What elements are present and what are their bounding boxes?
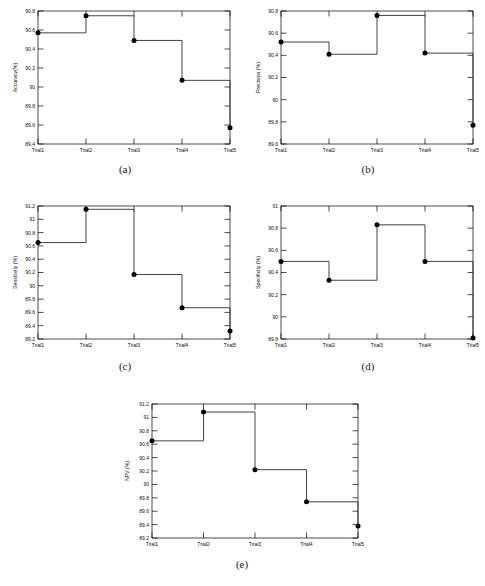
x-tick-label: Trial4 <box>176 342 189 348</box>
y-tick-label: 89.4 <box>139 522 149 528</box>
y-tick-label: 89.8 <box>268 119 278 125</box>
figure-panel-grid: 89.489.689.89090.290.490.690.8Trial1Tria… <box>0 0 485 586</box>
y-tick-label: 89.6 <box>25 309 35 315</box>
y-tick-label: 90.8 <box>139 428 149 434</box>
data-point-marker <box>471 123 476 128</box>
data-point-marker <box>375 222 380 227</box>
data-point-marker <box>356 523 361 528</box>
y-tick-label: 89.8 <box>25 103 35 109</box>
y-tick-label: 90.2 <box>268 292 278 298</box>
data-point-marker <box>132 272 137 277</box>
y-tick-label: 89.6 <box>139 508 149 514</box>
data-point-marker <box>201 410 206 415</box>
y-axis-label: Accuracy(%) <box>12 63 18 93</box>
data-point-marker <box>327 52 332 57</box>
x-tick-label: Trial4 <box>176 147 189 153</box>
plot-svg-a: 89.489.689.89090.290.490.690.8Trial1Tria… <box>8 4 236 162</box>
data-point-marker <box>180 305 185 310</box>
x-tick-label: Trial3 <box>128 342 141 348</box>
panel-caption-b: (b) <box>348 163 388 175</box>
data-point-marker <box>228 125 233 130</box>
y-tick-label: 89.8 <box>25 296 35 302</box>
y-tick-label: 90.4 <box>268 52 278 58</box>
data-point-marker <box>180 78 185 83</box>
y-tick-label: 91 <box>29 216 35 222</box>
y-tick-label: 91.2 <box>25 203 35 209</box>
y-tick-label: 91 <box>272 203 278 209</box>
chart-panel-a: 89.489.689.89090.290.490.690.8Trial1Tria… <box>8 4 236 162</box>
data-point-marker <box>36 30 41 35</box>
y-tick-label: 90.4 <box>25 256 35 262</box>
data-point-marker <box>279 40 284 45</box>
x-tick-label: Trial1 <box>32 342 45 348</box>
y-tick-label: 89.8 <box>139 495 149 501</box>
data-point-marker <box>304 499 309 504</box>
step-line <box>38 209 230 331</box>
y-tick-label: 90.2 <box>25 269 35 275</box>
y-tick-label: 90.6 <box>25 27 35 33</box>
plot-svg-e: 89.289.489.689.89090.290.490.690.89191.2… <box>118 396 366 556</box>
x-tick-label: Trial4 <box>300 541 313 547</box>
y-axis-label: NPV (%) <box>124 461 130 481</box>
x-tick-label: Trial5 <box>467 342 479 348</box>
chart-panel-b: 89.689.89090.290.490.690.8Trial1Trial2Tr… <box>251 4 479 162</box>
chart-panel-d: 89.89090.290.490.690.891Trial1Trial2Tria… <box>251 199 479 357</box>
data-point-marker <box>423 51 428 56</box>
y-tick-label: 91.2 <box>139 401 149 407</box>
x-tick-label: Trial3 <box>128 147 141 153</box>
x-tick-label: Trial1 <box>32 147 45 153</box>
step-line <box>281 225 473 338</box>
data-point-marker <box>36 240 41 245</box>
plot-svg-c: 89.289.489.689.89090.290.490.690.89191.2… <box>8 199 236 357</box>
x-tick-label: Trial1 <box>275 342 288 348</box>
panel-caption-a: (a) <box>105 163 145 175</box>
y-tick-label: 90.6 <box>139 441 149 447</box>
data-point-marker <box>279 259 284 264</box>
chart-panel-e: 89.289.489.689.89090.290.490.690.89191.2… <box>118 396 366 556</box>
x-tick-label: Trial5 <box>352 541 365 547</box>
y-axis-label: Sensitivity (%) <box>12 256 18 289</box>
y-axis-label: Specificity (%) <box>255 256 261 289</box>
chart-panel-c: 89.289.489.689.89090.290.490.690.89191.2… <box>8 199 236 357</box>
y-tick-label: 90.8 <box>25 8 35 14</box>
plot-svg-b: 89.689.89090.290.490.690.8Trial1Trial2Tr… <box>251 4 479 162</box>
y-tick-label: 90.6 <box>268 247 278 253</box>
y-tick-label: 90.8 <box>268 225 278 231</box>
data-point-marker <box>228 329 233 334</box>
x-tick-label: Trial3 <box>249 541 262 547</box>
data-point-marker <box>253 467 258 472</box>
panel-caption-d: (d) <box>348 360 388 372</box>
y-tick-label: 90.2 <box>139 468 149 474</box>
data-point-marker <box>423 259 428 264</box>
data-point-marker <box>84 207 89 212</box>
y-tick-label: 90.4 <box>25 46 35 52</box>
data-point-marker <box>327 278 332 283</box>
y-tick-label: 90 <box>29 84 35 90</box>
x-tick-label: Trial2 <box>80 342 93 348</box>
x-tick-label: Trial5 <box>224 147 236 153</box>
data-point-marker <box>84 13 89 18</box>
data-point-marker <box>471 335 476 340</box>
x-tick-label: Trial1 <box>146 541 159 547</box>
x-tick-label: Trial5 <box>467 147 479 153</box>
data-point-marker <box>132 38 137 43</box>
x-tick-label: Trial4 <box>419 342 432 348</box>
y-tick-label: 90.4 <box>139 455 149 461</box>
y-tick-label: 89.6 <box>25 122 35 128</box>
x-tick-label: Trial3 <box>371 342 384 348</box>
y-tick-label: 90.6 <box>268 30 278 36</box>
plot-svg-d: 89.89090.290.490.690.891Trial1Trial2Tria… <box>251 199 479 357</box>
x-tick-label: Trial5 <box>224 342 236 348</box>
y-tick-label: 90 <box>29 283 35 289</box>
step-line <box>38 16 230 128</box>
step-line <box>281 15 473 125</box>
x-tick-label: Trial2 <box>323 342 336 348</box>
data-point-marker <box>150 438 155 443</box>
y-tick-label: 90.4 <box>268 269 278 275</box>
panel-caption-e: (e) <box>222 558 262 570</box>
x-tick-label: Trial3 <box>371 147 384 153</box>
y-tick-label: 90.8 <box>268 8 278 14</box>
y-tick-label: 90 <box>272 314 278 320</box>
x-tick-label: Trial2 <box>323 147 336 153</box>
y-tick-label: 90 <box>272 97 278 103</box>
